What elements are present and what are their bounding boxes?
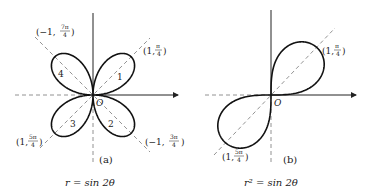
- svg-text:): ): [39, 137, 43, 147]
- svg-text:(−1,: (−1,: [145, 137, 165, 147]
- point-label-3pi-over-4: (−1, 3π 4 ): [145, 133, 185, 148]
- petal-number-4: 4: [58, 69, 64, 79]
- svg-text:4: 4: [157, 50, 161, 57]
- svg-text:(1,: (1,: [322, 46, 334, 56]
- point-label-pi-over-4: (1, π 4 ): [322, 42, 346, 57]
- panel-label-a: (a): [99, 154, 113, 165]
- svg-text:4: 4: [336, 50, 340, 57]
- petal-number-3: 3: [70, 119, 76, 129]
- svg-text:π: π: [156, 42, 160, 49]
- svg-text:5π: 5π: [235, 148, 243, 155]
- equation-b: r² = sin 2θ: [244, 177, 298, 188]
- figure-b: O (1, π 4 ) (1, 5π 4 ) (b) r² = sin 2θ: [205, 10, 356, 188]
- svg-text:4: 4: [63, 31, 67, 38]
- point-label-5pi-over-4: (1, 5π 4 ): [16, 133, 43, 148]
- panel-label-b: (b): [283, 154, 297, 165]
- petal-number-2: 2: [108, 119, 114, 129]
- svg-text:): ): [163, 46, 167, 56]
- point-label-7pi-over-4: (−1, 7π 4 ): [36, 23, 75, 38]
- figure-a: 1 2 3 4 O (1, π 4 ) (−1, 7π 4 ) (1, 5π 4…: [15, 13, 185, 188]
- svg-text:): ): [71, 27, 75, 37]
- svg-text:): ): [181, 137, 185, 147]
- figure-canvas: 1 2 3 4 O (1, π 4 ) (−1, 7π 4 ) (1, 5π 4…: [0, 0, 373, 193]
- origin-label: O: [96, 98, 104, 108]
- svg-text:3π: 3π: [170, 133, 178, 140]
- svg-text:5π: 5π: [29, 133, 37, 140]
- svg-text:): ): [245, 152, 249, 162]
- svg-text:4: 4: [31, 141, 35, 148]
- svg-text:(−1,: (−1,: [36, 27, 56, 37]
- svg-text:(1,: (1,: [222, 152, 234, 162]
- equation-a: r = sin 2θ: [65, 177, 115, 188]
- origin-label: O: [274, 98, 282, 108]
- svg-text:7π: 7π: [61, 23, 69, 30]
- svg-text:4: 4: [237, 156, 241, 163]
- svg-text:π: π: [335, 42, 339, 49]
- svg-text:4: 4: [172, 141, 176, 148]
- svg-text:(1,: (1,: [143, 46, 155, 56]
- point-label-pi-over-4: (1, π 4 ): [143, 42, 167, 57]
- point-label-5pi-over-4: (1, 5π 4 ): [222, 148, 249, 163]
- petal-number-1: 1: [117, 72, 123, 82]
- svg-text:): ): [342, 46, 346, 56]
- svg-text:(1,: (1,: [16, 137, 28, 147]
